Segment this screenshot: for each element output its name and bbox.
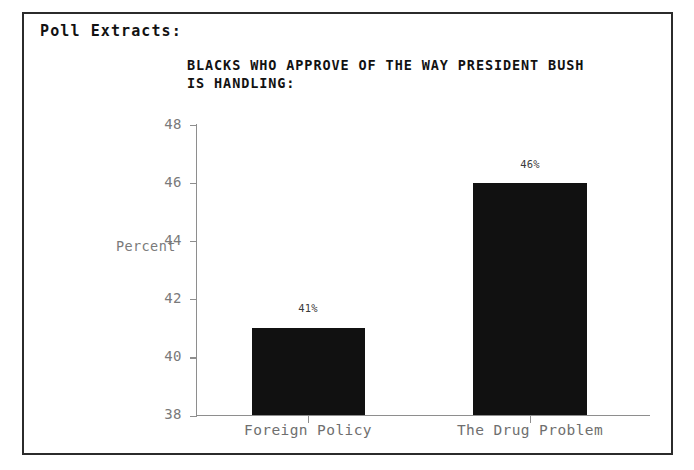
chart-title-line-1: BLACKS WHO APPROVE OF THE WAY PRESIDENT … bbox=[187, 57, 584, 73]
section-caption: Poll Extracts: bbox=[40, 22, 182, 40]
chart-title: BLACKS WHO APPROVE OF THE WAY PRESIDENT … bbox=[187, 56, 584, 92]
chart-title-line-2: IS HANDLING: bbox=[187, 75, 295, 91]
